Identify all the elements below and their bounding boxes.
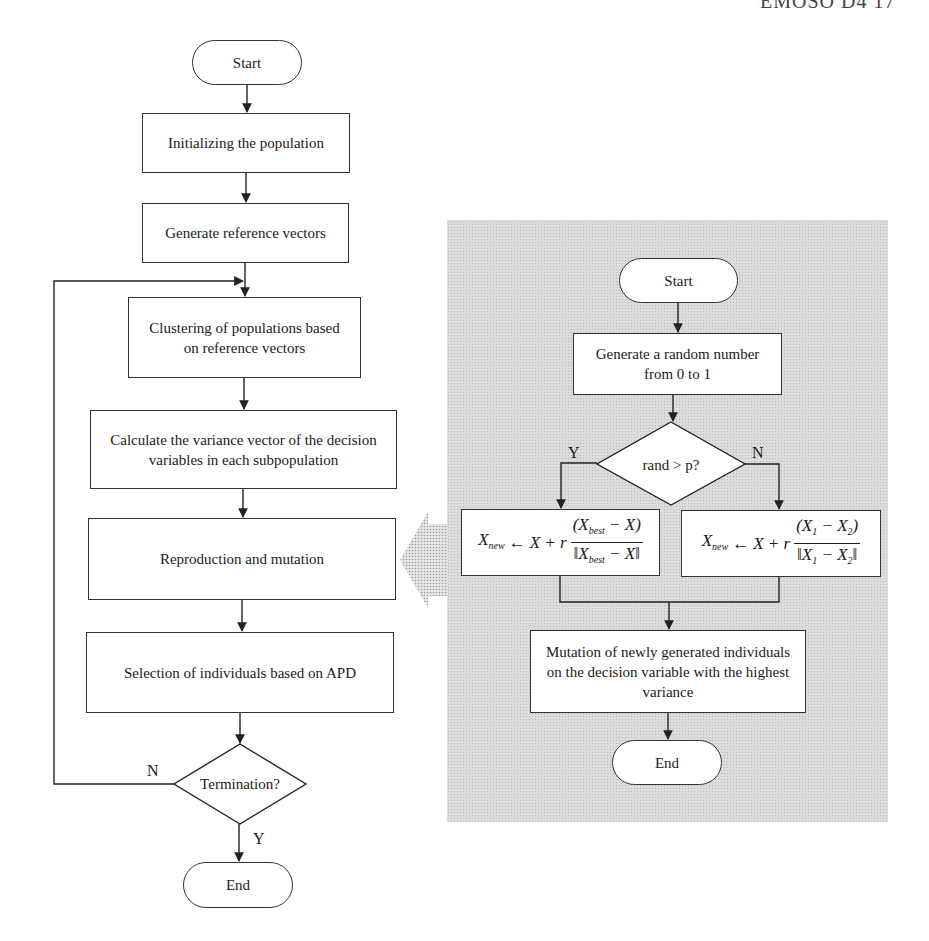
step-label: Generate a random number from 0 to 1	[580, 344, 775, 384]
formula-sub: best	[589, 525, 605, 536]
step-clustering-populations: Clustering of populations based on refer…	[128, 297, 361, 378]
rand-no-label: N	[752, 444, 764, 462]
left-start-terminal: Start	[192, 40, 302, 85]
left-end-terminal: End	[183, 862, 293, 908]
formula-sub: best	[589, 554, 605, 565]
rand-yes-label: Y	[568, 444, 580, 462]
right-end-terminal: End	[612, 740, 722, 785]
assign-arrow: ←	[732, 534, 749, 554]
step-reproduction-mutation: Reproduction and mutation	[88, 518, 396, 600]
step-label: Mutation of newly generated individuals …	[543, 642, 793, 702]
denominator-tail: − X‖	[605, 544, 640, 563]
step-mutation-highest-variance: Mutation of newly generated individuals …	[530, 630, 806, 713]
decision-label: Termination?	[200, 776, 280, 793]
step-calculate-variance: Calculate the variance vector of the dec…	[90, 410, 397, 489]
denominator: ‖X	[574, 544, 589, 563]
rand-decision: rand > p?	[597, 445, 745, 485]
panel-link-arrow	[400, 512, 447, 608]
denominator: ‖X	[797, 545, 812, 564]
denominator-tail: − X	[817, 545, 847, 564]
step-label: Calculate the variance vector of the dec…	[101, 430, 386, 470]
figure-canvas: EMOSO D4 17	[0, 0, 929, 941]
step-label: Selection of individuals based on APD	[124, 663, 356, 683]
denominator-end: ‖	[853, 545, 858, 564]
termination-decision: Termination?	[174, 764, 306, 804]
formula-term: X + r	[753, 534, 790, 554]
formula-no: Xnew ← X + r (X1 − X2) ‖X1 − X2‖	[702, 516, 861, 571]
numerator-tail: − X)	[605, 515, 641, 534]
numerator: (X	[573, 515, 589, 534]
formula-yes-box: Xnew ← X + r (Xbest − X) ‖Xbest − X‖	[461, 509, 660, 576]
numerator-end: )	[853, 516, 859, 535]
step-label: Reproduction and mutation	[160, 549, 324, 569]
formula-sub: new	[489, 540, 505, 551]
formula-yes: Xnew ← X + r (Xbest − X) ‖Xbest − X‖	[478, 515, 643, 570]
step-label: Initializing the population	[168, 133, 324, 153]
decision-label: rand > p?	[643, 457, 700, 474]
numerator-tail: − X	[817, 516, 847, 535]
termination-no-label: N	[147, 762, 159, 780]
step-generate-reference-vectors: Generate reference vectors	[142, 203, 349, 263]
right-end-label: End	[655, 753, 679, 773]
step-label: Clustering of populations based on refer…	[143, 318, 346, 358]
left-end-label: End	[226, 875, 250, 895]
numerator: (X	[796, 516, 812, 535]
fraction: (Xbest − X) ‖Xbest − X‖	[571, 515, 643, 570]
step-generate-random: Generate a random number from 0 to 1	[573, 333, 782, 395]
fraction: (X1 − X2) ‖X1 − X2‖	[794, 516, 860, 571]
right-start-label: Start	[664, 271, 692, 291]
formula-term: X	[478, 530, 488, 549]
step-label: Generate reference vectors	[165, 223, 326, 243]
left-start-label: Start	[233, 53, 261, 73]
formula-term: X + r	[530, 533, 567, 553]
step-selection-apd: Selection of individuals based on APD	[86, 632, 394, 713]
formula-sub: new	[712, 541, 728, 552]
formula-term: X	[702, 531, 712, 550]
termination-yes-label: Y	[253, 830, 265, 848]
step-initialize-population: Initializing the population	[142, 113, 350, 173]
formula-no-box: Xnew ← X + r (X1 − X2) ‖X1 − X2‖	[681, 510, 881, 577]
right-start-terminal: Start	[619, 258, 738, 303]
assign-arrow: ←	[509, 533, 526, 553]
